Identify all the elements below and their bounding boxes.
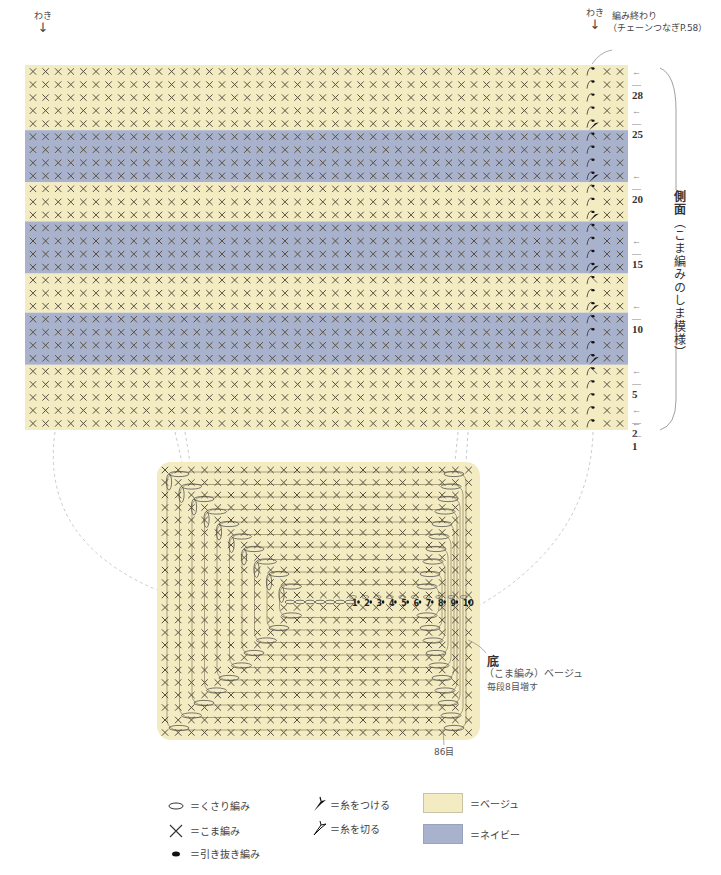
legend-label: ＝くさり編み [190, 798, 250, 813]
chain-stitch-icon [168, 801, 184, 811]
legend-cut-yarn: ＝糸を切る [312, 820, 380, 836]
legend-label: ＝糸を切る [330, 821, 380, 836]
round-label: 3 [377, 599, 383, 608]
legend-label: ＝ネイビー [470, 827, 520, 842]
round-label: 6 [414, 599, 420, 608]
side-panel-chart [0, 0, 721, 440]
legend-label: ＝引き抜き編み [190, 846, 260, 861]
navy-swatch [423, 824, 463, 844]
round-label: 7 [426, 599, 432, 608]
bottom-panel-subtitle: （こま編み）ベージュ [484, 665, 583, 680]
legend-chain-stitch: ＝くさり編み [168, 798, 250, 813]
beige-swatch [423, 793, 463, 813]
legend-label: ＝ベージュ [470, 796, 519, 811]
row-label: ←—25 [632, 104, 643, 140]
legend-join-yarn: ＝糸をつける [312, 796, 390, 812]
side-panel-title-sub: （こま編みのしま模様） [671, 216, 685, 359]
round-label: 5 [401, 599, 407, 608]
row-label: ←—5 [632, 364, 641, 400]
bottom-panel-chart: 12345678910 [0, 430, 721, 760]
round-label: 1 [352, 599, 358, 608]
legend-single-crochet: ＝こま編み [168, 823, 240, 838]
row-label: ←—10 [632, 299, 643, 335]
slip-stitch-icon [168, 849, 184, 859]
round-label: 4 [389, 599, 395, 608]
row-label: ←—28 [632, 65, 643, 101]
legend-label: ＝こま編み [190, 823, 240, 838]
round-label: 8 [438, 599, 444, 608]
legend-label: ＝糸をつける [330, 797, 390, 812]
stitch-count: 86目 [434, 745, 454, 758]
side-panel-title: 側面（こま編みのしま模様） [670, 190, 687, 359]
legend-color-beige: ＝ベージュ [423, 793, 519, 813]
row-label: ←—15 [632, 234, 643, 270]
row-label: ←—20 [632, 169, 643, 205]
bottom-panel-note: 毎段8目増す [487, 680, 538, 693]
round-label: 2 [364, 599, 370, 608]
round-label: 9 [450, 599, 456, 608]
join-yarn-icon [312, 796, 328, 812]
cut-yarn-icon [312, 820, 328, 836]
single-crochet-icon [168, 824, 184, 838]
side-panel-title-main: 側面 [671, 190, 685, 216]
legend-color-navy: ＝ネイビー [423, 824, 520, 844]
legend-slip-stitch: ＝引き抜き編み [168, 846, 260, 861]
